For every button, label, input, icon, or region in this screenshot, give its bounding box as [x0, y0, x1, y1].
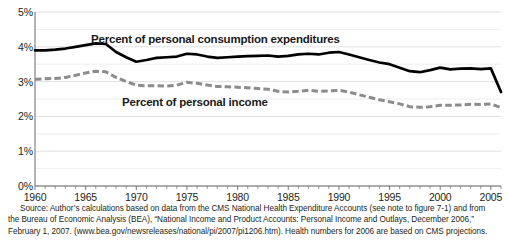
- series-line-personal-consumption-expenditures: [35, 43, 501, 92]
- x-axis-tick-marks: [35, 186, 501, 190]
- series-label-personal-income: Percent of personal income: [122, 96, 268, 108]
- source-line-1: Source: Author’s calculations based on d…: [8, 203, 502, 214]
- source-line-3: February 1, 2007. (www.bea.gov/newsrelea…: [8, 226, 502, 237]
- series-line-personal-income: [35, 71, 501, 108]
- source-note: Source: Author’s calculations based on d…: [8, 203, 502, 237]
- source-line-2: the Bureau of Economic Analysis (BEA), “…: [8, 214, 502, 225]
- figure-container: Figure 7-2. National health expenditures…: [0, 0, 508, 245]
- series-label-pce: Percent of personal consumption expendit…: [91, 33, 340, 45]
